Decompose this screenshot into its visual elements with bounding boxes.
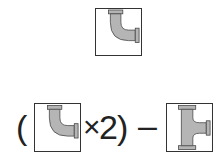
right-tee-tile [166, 103, 213, 152]
top-elbow-tile [95, 8, 142, 56]
elbow-fitting-icon [96, 9, 141, 55]
minus-sign: – [138, 108, 157, 142]
elbow-fitting-icon [35, 104, 80, 151]
close-paren: ) [117, 110, 128, 144]
open-paren: ( [16, 110, 27, 144]
left-elbow-tile [34, 103, 81, 152]
multiply-sign: × [83, 112, 101, 142]
tee-fitting-icon [167, 104, 212, 151]
factor-number: 2 [99, 110, 118, 144]
